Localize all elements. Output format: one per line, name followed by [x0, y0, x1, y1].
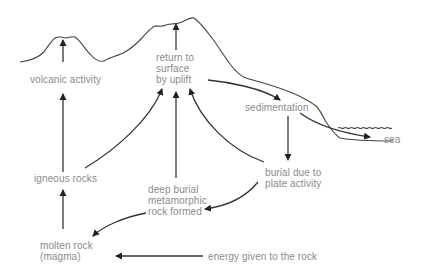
label-line: by uplift: [156, 74, 194, 85]
label-line: return to: [156, 52, 194, 63]
label-deep-burial: deep burial metamorphic rock formed: [148, 184, 207, 217]
arrow-uplift-to-sedimentation: [208, 80, 280, 100]
label-return-to-surface: return to surface by uplift: [156, 52, 194, 85]
arrow-burial-to-deepburial: [205, 182, 258, 209]
arrow-deepburial-to-molten: [93, 213, 146, 236]
label-molten-rock: molten rock (magma): [40, 240, 93, 262]
diagram-graphics: [0, 0, 427, 277]
label-line: metamorphic: [148, 195, 207, 206]
label-sea: sea: [384, 134, 400, 145]
label-energy: energy given to the rock: [208, 251, 317, 262]
rock-cycle-diagram: volcanic activity return to surface by u…: [0, 0, 427, 277]
label-igneous-rocks: igneous rocks: [34, 173, 97, 184]
arrow-igneous-to-uplift: [85, 89, 162, 168]
label-line: plate activity: [265, 178, 321, 189]
sea-surface: [338, 128, 392, 129]
label-line: rock formed: [148, 206, 207, 217]
label-volcanic-activity: volcanic activity: [30, 74, 101, 85]
label-line: (magma): [40, 251, 93, 262]
label-line: deep burial: [148, 184, 207, 195]
arrow-burial-to-uplift: [190, 89, 264, 162]
label-line: surface: [156, 63, 194, 74]
label-line: burial due to: [265, 167, 321, 178]
label-burial-plate-activity: burial due to plate activity: [265, 167, 321, 189]
label-sedimentation: sedimentation: [245, 102, 309, 113]
label-line: molten rock: [40, 240, 93, 251]
